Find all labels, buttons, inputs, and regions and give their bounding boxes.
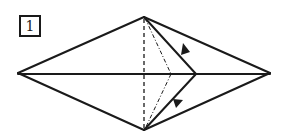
outline-bottom-left (18, 73, 144, 130)
outline-bottom-right (144, 73, 270, 130)
fold-edge-top (144, 17, 196, 74)
arrow-upper-icon (181, 43, 190, 55)
fold-edge-bottom (144, 74, 196, 130)
step-number-badge: 1 (19, 15, 41, 37)
fold-diagram (0, 0, 283, 134)
origami-step-diagram: 1 (0, 0, 283, 134)
hidden-fold-bottom (145, 74, 171, 129)
step-number: 1 (26, 19, 35, 33)
outline-top-right (144, 17, 270, 73)
arrow-lower-icon (173, 99, 183, 108)
